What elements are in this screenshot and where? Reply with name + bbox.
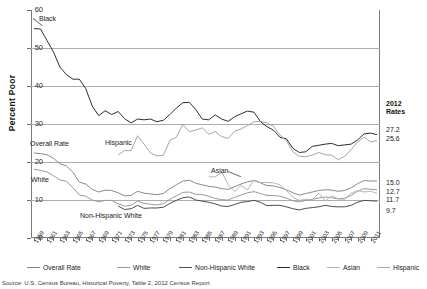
legend-swatch [179,267,192,268]
source-note: Source: U.S. Census Bureau, Historical P… [2,280,210,286]
rate-value-white: 12.7 [386,188,400,196]
legend-item-asian[interactable]: Asian [327,264,360,271]
legend-item-white[interactable]: White [117,264,150,271]
rates-heading-year: 2012 [386,100,402,108]
series-line-black [34,29,377,153]
y-axis-title: Percent Poor [7,68,17,138]
legend-swatch [117,267,130,268]
series-line-overall-rate [34,153,377,196]
legend-item-hispanic[interactable]: Hispanic [377,264,419,271]
legend-label: Overall Rate [43,264,81,271]
legend-label: Non-Hispanic White [195,264,255,271]
legend-label: Black [293,264,310,271]
legend-swatch [277,267,290,268]
annotation-white: White [31,176,49,183]
legend-swatch [377,267,390,268]
rate-value-asian: 11.7 [386,196,399,204]
legend-swatch [27,267,40,268]
annotation-hispanic: Hispanic [105,139,132,146]
legend-label: Hispanic [393,264,419,271]
rate-value-overall-rate: 15.0 [386,179,400,187]
legend-item-non-hispanic-white[interactable]: Non-Hispanic White [179,264,255,271]
poverty-rate-chart: Percent Poor 010203040506019591961196319… [0,0,427,289]
annotation-black: Black [39,15,56,22]
rate-value-black: 27.2 [386,126,400,134]
annotation-overall-rate: Overall Rate [30,140,69,147]
rates-heading-label: Rates [386,108,405,116]
legend-label: Asian [343,264,360,271]
rate-value-non-hispanic-white: 9.7 [386,207,396,215]
annotation-asian: Asian [211,167,229,174]
series-lines [31,10,380,238]
annotation-non-hispanic-white: Non-Hispanic White [80,212,142,219]
legend-label: White [133,264,150,271]
legend-item-black[interactable]: Black [277,264,310,271]
rate-value-hispanic: 25.6 [386,135,400,143]
legend-item-overall-rate[interactable]: Overall Rate [27,264,81,271]
legend-swatch [327,267,340,268]
chart-legend: Overall RateWhiteNon-Hispanic WhiteBlack… [19,264,414,275]
series-line-hispanic [118,121,377,159]
